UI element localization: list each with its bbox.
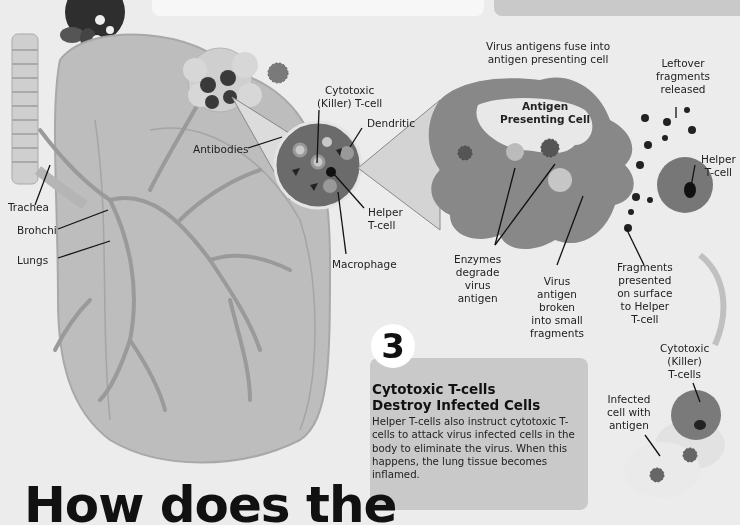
step3-title: Cytotoxic T-cells Destroy Infected Cells (372, 381, 540, 413)
label-fragments-presented: Fragments presented on surface to Helper… (617, 261, 673, 326)
label-leftover-fragments: Leftover fragments released (656, 57, 710, 96)
label-enzymes: Enzymes degrade virus antigen (454, 253, 501, 305)
step3-number-badge: 3 (371, 324, 415, 368)
page-headline: How does the (24, 477, 396, 525)
label-virus-antigen-broken: Virus antigen broken into small fragment… (530, 275, 584, 340)
label-lungs: Lungs (17, 254, 48, 267)
killer-tcell-shape (671, 390, 721, 440)
label-bronchi: Brohchi (17, 224, 57, 237)
label-helper-tcell-left: Helper T-cell (368, 206, 403, 232)
label-infected-cell: Infected cell with antigen (607, 393, 651, 432)
label-antibodies: Antibodies (193, 143, 248, 156)
label-virus-antigens-fuse: Virus antigens fuse into antigen present… (486, 40, 610, 66)
label-cytotoxic-tcells: Cytotoxic (Killer) T-cells (660, 342, 709, 381)
virus-icon (268, 63, 288, 83)
label-dendritic: Dendritic (367, 117, 415, 130)
label-cytotoxic-killer-tcell: Cytotoxic (Killer) T-cell (317, 84, 382, 110)
apc-title: Antigen Presenting Cell (500, 100, 590, 126)
label-helper-tcell-right: Helper T-cell (701, 153, 736, 179)
label-trachea: Trachea (8, 201, 49, 214)
step3-body: Helper T-cells also instruct cytotoxic T… (372, 415, 587, 481)
label-macrophage: Macrophage (332, 258, 397, 271)
